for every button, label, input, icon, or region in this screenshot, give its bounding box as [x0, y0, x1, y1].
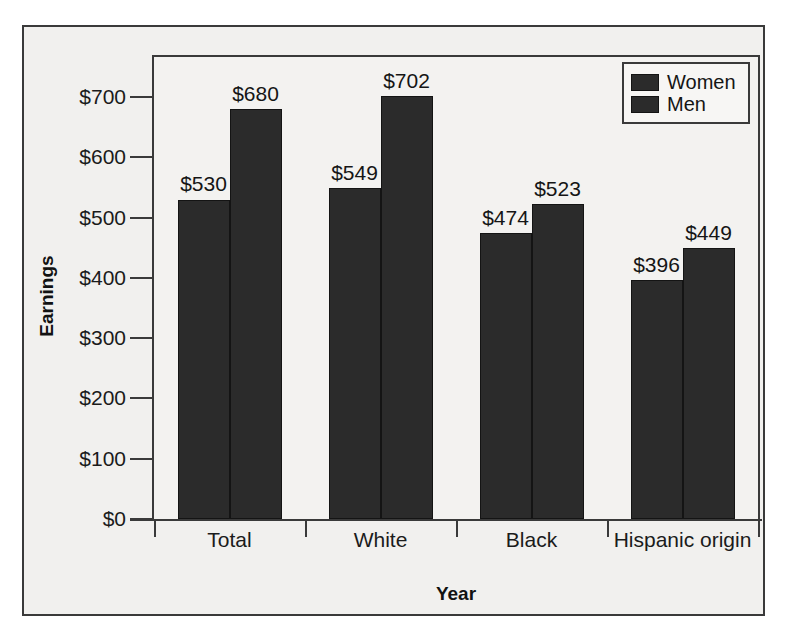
- y-tick-mark: [130, 96, 152, 98]
- chart-screenshot: Earnings $0$100$200$300$400$500$600$700 …: [0, 0, 791, 639]
- x-axis-title: Year: [152, 583, 760, 605]
- legend-swatch-icon: [631, 74, 659, 91]
- bar-value-label: $549: [315, 162, 395, 183]
- y-tick-label: $100: [38, 448, 126, 469]
- bar-value-label: $396: [617, 254, 697, 275]
- bar-white-women: [329, 188, 381, 519]
- legend-swatch-icon: [631, 96, 659, 113]
- y-tick-label: $300: [38, 327, 126, 348]
- y-tick-mark: [130, 397, 152, 399]
- bar-black-men: [532, 204, 584, 519]
- x-category-label: Hispanic origin: [607, 528, 758, 552]
- bar-total-women: [178, 200, 230, 520]
- y-tick-label: $0: [38, 508, 126, 529]
- legend: Women Men: [622, 62, 750, 124]
- legend-item-women: Women: [631, 72, 740, 92]
- legend-label-men: Men: [667, 94, 706, 114]
- bar-white-men: [381, 96, 433, 519]
- x-tick-mark: [758, 521, 760, 537]
- bar-value-label: $530: [164, 173, 244, 194]
- plot-area: [152, 55, 760, 519]
- x-category-label: Total: [154, 528, 305, 552]
- bar-hispanic-origin-women: [631, 280, 683, 519]
- legend-item-men: Men: [631, 94, 740, 114]
- bar-value-label: $702: [367, 70, 447, 91]
- y-tick-mark: [130, 458, 152, 460]
- bar-hispanic-origin-men: [683, 248, 735, 519]
- y-tick-label: $700: [38, 86, 126, 107]
- y-tick-label: $200: [38, 387, 126, 408]
- y-tick-label: $500: [38, 207, 126, 228]
- bar-value-label: $523: [518, 178, 598, 199]
- y-tick-mark: [130, 277, 152, 279]
- bar-value-label: $449: [669, 222, 749, 243]
- y-tick-label: $400: [38, 267, 126, 288]
- legend-label-women: Women: [667, 72, 736, 92]
- y-axis-line: [152, 55, 154, 521]
- bar-value-label: $680: [216, 83, 296, 104]
- x-category-label: White: [305, 528, 456, 552]
- bar-value-label: $474: [466, 207, 546, 228]
- y-tick-mark: [130, 217, 152, 219]
- plot-inner: [154, 57, 758, 519]
- bar-black-women: [480, 233, 532, 519]
- y-tick-label: $600: [38, 146, 126, 167]
- x-category-label: Black: [456, 528, 607, 552]
- y-tick-mark: [130, 156, 152, 158]
- x-axis-line: [130, 519, 762, 521]
- bar-total-men: [230, 109, 282, 519]
- y-tick-mark: [130, 337, 152, 339]
